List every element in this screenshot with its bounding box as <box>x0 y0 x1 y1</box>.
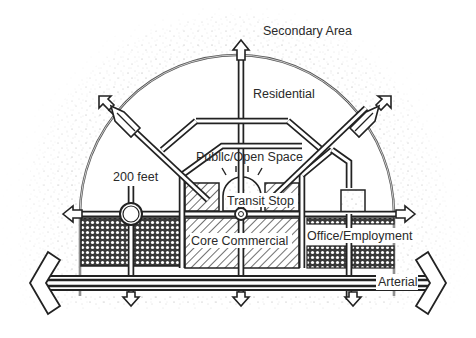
label-arterial: Arterial <box>378 275 418 289</box>
label-secondary-area: Secondary Area <box>263 24 352 38</box>
label-residential: Residential <box>253 87 315 101</box>
tod-diagram: Secondary Area Residential Publlc/Open S… <box>0 0 476 338</box>
label-transit-stop: Transit Stop <box>227 194 294 208</box>
label-office-employment: Office/Employment <box>307 229 413 243</box>
label-200-feet: 200 feet <box>113 170 159 184</box>
label-core-commercial: Core Commercial <box>191 234 288 248</box>
roundabout-center <box>235 208 247 220</box>
roundabout-left <box>120 203 142 225</box>
label-public-open-space: Publlc/Open Space <box>196 150 303 164</box>
